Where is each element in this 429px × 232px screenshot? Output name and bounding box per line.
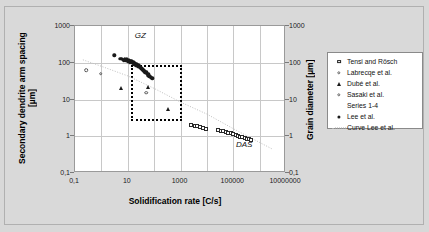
plot-area: GZDAS (74, 25, 285, 172)
y2-axis-tick-label: 0,1 (289, 169, 299, 176)
y-axis-tick-mark (70, 99, 74, 100)
gridline-vertical (128, 26, 129, 171)
y-axis-tick-label: 0,1 (42, 169, 70, 176)
data-point (146, 85, 150, 89)
legend-item-tensi-and-rosch[interactable]: Tensi and Rösch (331, 56, 420, 67)
data-point (144, 91, 148, 95)
legend-item-lee[interactable]: Lee et al. (331, 111, 420, 122)
chart-screenshot: GZDAS Secondary dendrite arm spacing [µm… (0, 0, 429, 232)
data-point (113, 54, 116, 57)
x-axis-tick-label: 1000 (172, 177, 188, 184)
chart-legend: Tensi and Rösch Labrecqe et al. Dubé et … (327, 52, 423, 129)
legend-label: Sasaki et al. (347, 89, 384, 100)
legend-label: Series 1-4 (347, 100, 378, 111)
data-point (204, 127, 208, 131)
y2-axis-tick-mark (285, 62, 289, 63)
x-axis-tick-label: 0,1 (69, 177, 79, 184)
y2-axis-tick-label: 100 (289, 58, 301, 65)
filled-triangle-icon (331, 78, 347, 89)
gridline-horizontal (75, 63, 284, 64)
x-axis-title: Solidification rate [C/s] (60, 196, 290, 206)
gridline-vertical (260, 26, 261, 171)
gridline-vertical (207, 26, 208, 171)
y-axis-tick-label: 100 (42, 58, 70, 65)
y2-axis-tick-mark (285, 99, 289, 100)
open-circle-icon (331, 89, 347, 100)
legend-label: Curve Lee et al. (347, 122, 395, 133)
legend-item-series-1-4[interactable]: Series 1-4 (331, 100, 420, 111)
x-axis-tick-label: 10000000 (269, 177, 300, 184)
y-axis-right-title: Grain diameter [µm] (306, 48, 318, 152)
y2-axis-tick-label: 10 (289, 95, 297, 102)
legend-label: Tensi and Rösch (347, 56, 397, 67)
data-point (119, 86, 123, 90)
y2-axis-tick-mark (285, 172, 289, 173)
legend-label: Lee et al. (347, 111, 375, 122)
legend-item-curve-lee[interactable]: Curve Lee et al. (331, 122, 420, 133)
y-axis-tick-mark (70, 135, 74, 136)
legend-item-dube[interactable]: Dubé et al. (331, 78, 420, 89)
open-square-icon (331, 56, 347, 67)
y-axis-tick-mark (70, 62, 74, 63)
data-point (99, 72, 103, 76)
legend-item-sasaki[interactable]: Sasaki et al. (331, 89, 420, 100)
y-axis-tick-mark (70, 172, 74, 173)
gridline-vertical (233, 26, 234, 171)
legend-label: Labrecqe et al. (347, 67, 392, 78)
y2-axis-tick-label: 1 (289, 132, 293, 139)
y2-axis-tick-mark (285, 25, 289, 26)
x-axis-tick-label: 10 (123, 177, 131, 184)
annotation-das: DAS (236, 139, 252, 148)
annotation-gz: GZ (135, 31, 146, 40)
data-point (166, 107, 170, 111)
y-axis-tick-label: 1 (42, 132, 70, 139)
legend-label: Dubé et al. (347, 78, 380, 89)
y-axis-tick-label: 1000 (42, 22, 70, 29)
data-point (84, 69, 88, 73)
y2-axis-tick-mark (285, 135, 289, 136)
gridline-vertical (101, 26, 102, 171)
highlight-region-box (131, 65, 182, 121)
dotted-line-icon (331, 122, 347, 133)
y-axis-tick-mark (70, 25, 74, 26)
no-marker-icon (331, 100, 347, 111)
x-axis-tick-label: 100000 (221, 177, 244, 184)
filled-circle-icon (331, 111, 347, 122)
open-circle-icon (331, 67, 347, 78)
y-axis-tick-label: 10 (42, 95, 70, 102)
legend-item-labrecqe[interactable]: Labrecqe et al. (331, 67, 420, 78)
y2-axis-tick-label: 1000 (289, 22, 305, 29)
y-axis-left-title: Secondary dendrite arm spacing [µm] (18, 32, 40, 164)
